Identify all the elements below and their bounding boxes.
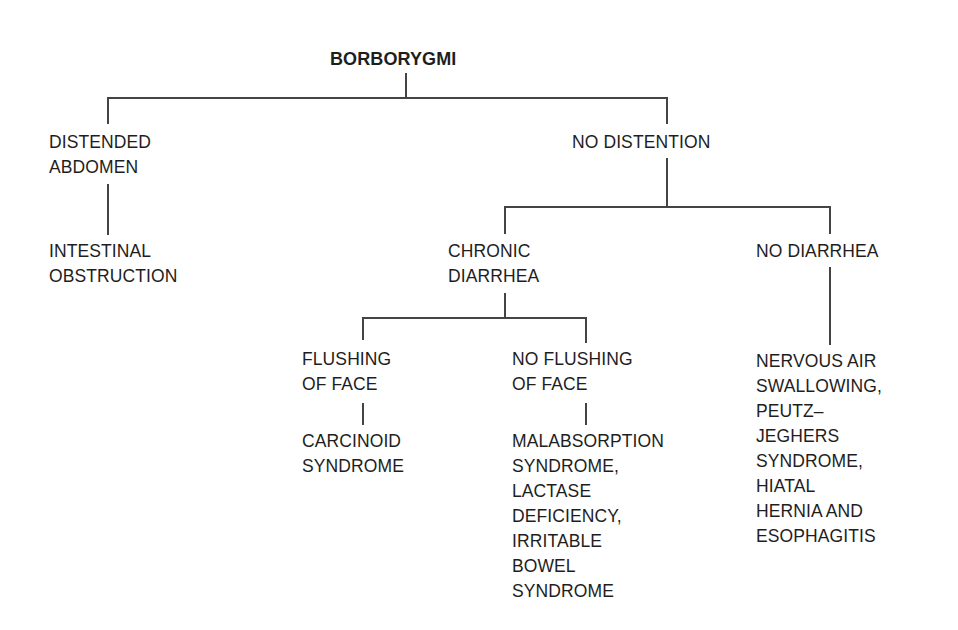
connector-no-distention-stem (666, 158, 668, 207)
node-no-flushing-of-face: NO FLUSHING OF FACE (512, 347, 633, 397)
node-label: SYNDROME, (756, 449, 882, 474)
node-malabsorption-group: MALABSORPTION SYNDROME, LACTASE DEFICIEN… (512, 429, 664, 604)
node-label: LACTASE (512, 479, 664, 504)
node-label: HERNIA AND (756, 499, 882, 524)
connector-to-distended (107, 97, 109, 124)
connector-to-nervous-air (829, 267, 831, 345)
node-label: DIARRHEA (448, 264, 539, 289)
node-carcinoid-syndrome: CARCINOID SYNDROME (302, 429, 404, 479)
node-label: IRRITABLE (512, 529, 664, 554)
node-nervous-air-group: NERVOUS AIR SWALLOWING, PEUTZ– JEGHERS S… (756, 349, 882, 549)
node-label: CARCINOID (302, 429, 404, 454)
node-label: OF FACE (512, 372, 633, 397)
node-label: NO DIARRHEA (756, 239, 879, 264)
connector-to-obstruction (107, 184, 109, 235)
node-label: ESOPHAGITIS (756, 524, 882, 549)
node-label: INTESTINAL (49, 239, 177, 264)
node-label: SYNDROME (302, 454, 404, 479)
node-label: DISTENDED (49, 130, 151, 155)
node-distended-abdomen: DISTENDED ABDOMEN (49, 130, 151, 180)
node-label: OF FACE (302, 372, 391, 397)
node-label: DEFICIENCY, (512, 504, 664, 529)
node-no-distention: NO DISTENTION (572, 130, 710, 155)
node-label: PEUTZ– (756, 399, 882, 424)
node-label: BORBORYGMI (330, 47, 456, 72)
node-label: OBSTRUCTION (49, 264, 177, 289)
node-label: NO DISTENTION (572, 130, 710, 155)
node-label: SYNDROME, (512, 454, 664, 479)
connector-root-stem (405, 73, 407, 98)
node-label: HIATAL (756, 474, 882, 499)
node-label: SWALLOWING, (756, 374, 882, 399)
connector-to-malabsorption (585, 403, 587, 425)
node-label: MALABSORPTION (512, 429, 664, 454)
node-label: BOWEL (512, 554, 664, 579)
connector-to-no-flushing (585, 317, 587, 343)
node-label: JEGHERS (756, 424, 882, 449)
node-label: NO FLUSHING (512, 347, 633, 372)
node-label: NERVOUS AIR (756, 349, 882, 374)
connector-no-distention-bar (504, 206, 831, 208)
node-borborygmi: BORBORYGMI (330, 47, 456, 72)
connector-root-bar (107, 97, 668, 99)
connector-to-chronic-diarrhea (504, 206, 506, 234)
node-label: ABDOMEN (49, 155, 151, 180)
node-chronic-diarrhea: CHRONIC DIARRHEA (448, 239, 539, 289)
connector-to-carcinoid (362, 403, 364, 425)
node-no-diarrhea: NO DIARRHEA (756, 239, 879, 264)
node-label: SYNDROME (512, 579, 664, 604)
node-intestinal-obstruction: INTESTINAL OBSTRUCTION (49, 239, 177, 289)
borborygmi-decision-tree: BORBORYGMI DISTENDED ABDOMEN INTESTINAL … (0, 0, 958, 630)
connector-chronic-diarrhea-stem (504, 293, 506, 318)
connector-to-flushing (362, 317, 364, 340)
connector-to-no-diarrhea (829, 206, 831, 234)
node-label: CHRONIC (448, 239, 539, 264)
node-label: FLUSHING (302, 347, 391, 372)
connector-chronic-diarrhea-bar (362, 317, 586, 319)
node-flushing-of-face: FLUSHING OF FACE (302, 347, 391, 397)
connector-to-no-distention (666, 97, 668, 124)
